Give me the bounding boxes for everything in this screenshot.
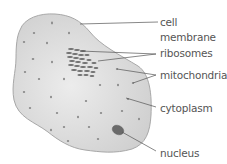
leader-cell-membrane xyxy=(80,22,158,24)
label-cell-line2: membrane xyxy=(160,31,216,43)
label-cell-membrane: cell membrane xyxy=(160,16,216,43)
label-nucleus: nucleus xyxy=(160,147,199,159)
label-cell-line1: cell xyxy=(160,16,216,28)
label-ribosomes: ribosomes xyxy=(160,47,213,59)
cell-membrane xyxy=(13,14,151,152)
label-cytoplasm: cytoplasm xyxy=(160,102,212,114)
label-mitochondria: mitochondria xyxy=(160,69,227,81)
